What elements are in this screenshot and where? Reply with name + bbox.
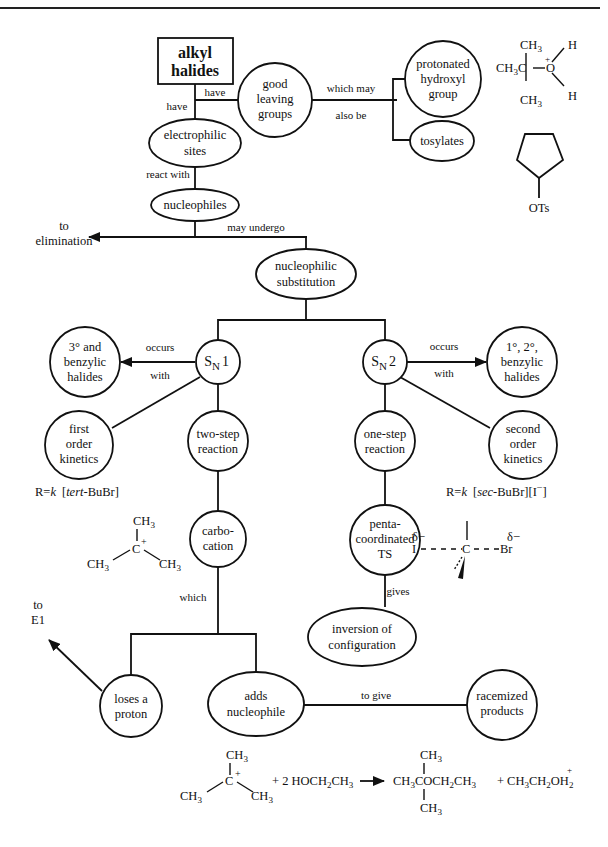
svg-text:CH3: CH3	[133, 514, 155, 530]
svg-text:order: order	[510, 437, 537, 451]
svg-text:first: first	[69, 422, 90, 436]
node-electrophilic-sites: electrophilic sites	[149, 119, 241, 167]
svg-text:proton: proton	[115, 707, 148, 721]
svg-text:benzylic: benzylic	[501, 355, 544, 369]
structure-cyclopentyl-tosylate: OTs	[517, 134, 563, 215]
node-nucleophilic-substitution: nucleophilic substitution	[256, 249, 356, 299]
svg-text:occurs: occurs	[146, 341, 175, 353]
svg-text:halides: halides	[504, 370, 540, 384]
svg-text:CH3C: CH3C	[496, 61, 526, 77]
svg-text:nucleophilic: nucleophilic	[275, 259, 337, 273]
svg-text:CH3: CH3	[251, 789, 273, 805]
svg-text:kinetics: kinetics	[504, 452, 543, 466]
svg-text:second: second	[506, 422, 541, 436]
node-tertiary-benzylic-halides: 3° and benzylic halides	[50, 327, 120, 397]
svg-text:protonated: protonated	[416, 57, 470, 71]
svg-text:with: with	[434, 367, 454, 379]
node-adds-nucleophile: adds nucleophile	[208, 672, 304, 736]
svg-text:CH3COCH2CH3: CH3COCH2CH3	[393, 774, 476, 790]
node-inversion-of-configuration: inversion of configuration	[308, 608, 416, 666]
svg-text:sites: sites	[184, 144, 206, 158]
svg-text:products: products	[480, 704, 523, 718]
node-pentacoordinated-ts: penta- coordinated TS	[350, 505, 420, 575]
svg-text:1°, 2°,: 1°, 2°,	[506, 340, 538, 354]
svg-text:carbo-: carbo-	[202, 524, 234, 538]
svg-text:CH3: CH3	[520, 93, 542, 109]
svg-text:may undergo: may undergo	[227, 221, 285, 233]
svg-text:E1: E1	[31, 613, 45, 627]
svg-text:tosylates: tosylates	[420, 134, 464, 148]
svg-text:OTs: OTs	[529, 201, 550, 215]
svg-text:coordinated: coordinated	[355, 532, 415, 546]
node-one-step-reaction: one-step reaction	[355, 411, 415, 471]
svg-text:Br: Br	[500, 542, 513, 556]
svg-text:R=k[sec-BuBr][I−]: R=k[sec-BuBr][I−]	[446, 482, 547, 499]
svg-text:two-step: two-step	[196, 427, 239, 441]
svg-text:penta-: penta-	[369, 517, 400, 531]
svg-text:have: have	[205, 86, 226, 98]
svg-text:CH3: CH3	[420, 801, 442, 817]
node-protonated-hydroxyl-group: protonated hydroxyl group	[405, 41, 481, 117]
svg-text:good: good	[263, 77, 289, 91]
svg-text:which: which	[180, 591, 207, 603]
node-two-step-reaction: two-step reaction	[188, 411, 248, 471]
svg-text:S: S	[204, 354, 212, 369]
svg-text:+: +	[141, 536, 147, 547]
svg-text:order: order	[66, 437, 93, 451]
svg-text:halides: halides	[67, 370, 103, 384]
svg-text:CH3: CH3	[420, 748, 442, 764]
structure-tbutyl-cation: CH3 C + CH3 CH3	[87, 514, 181, 573]
node-primary-secondary-benzylic-halides: 1°, 2°, benzylic halides	[487, 327, 557, 397]
svg-text:+: +	[567, 765, 572, 775]
node-racemized-products: racemized products	[467, 670, 537, 740]
edges	[49, 79, 490, 705]
svg-text:react with: react with	[146, 168, 190, 180]
svg-text:+ 2 HOCH2CH3: + 2 HOCH2CH3	[272, 774, 354, 790]
equation-sn1-etherification: CH3 C + CH3 CH3 + 2 HOCH2CH3 CH3 CH3COCH…	[180, 748, 573, 817]
svg-text:CH3: CH3	[180, 789, 202, 805]
node-nucleophiles: nucleophiles	[151, 189, 239, 221]
svg-text:C: C	[462, 542, 470, 556]
svg-text:leaving: leaving	[257, 92, 295, 106]
svg-text:S: S	[371, 354, 379, 369]
svg-text:also be: also be	[336, 109, 367, 121]
rate-law-sn1: R=k[tert-BuBr]	[35, 485, 119, 499]
svg-text:C: C	[132, 542, 140, 556]
node-alkyl-halides: alkyl halides	[158, 38, 233, 84]
svg-text:nucleophiles: nucleophiles	[163, 198, 226, 212]
svg-text:with: with	[150, 369, 170, 381]
svg-text:+: +	[545, 54, 550, 64]
concept-map: alkyl halides good leaving groups proton…	[0, 0, 608, 847]
svg-text:halides: halides	[171, 62, 219, 79]
svg-text:+CH3CH2OH2: +CH3CH2OH2	[497, 774, 573, 790]
svg-text:adds: adds	[245, 689, 268, 703]
svg-text:one-step: one-step	[364, 427, 406, 441]
node-carbocation: carbo- cation	[190, 511, 246, 567]
svg-text:have: have	[167, 100, 188, 112]
svg-text:racemized: racemized	[476, 689, 528, 703]
svg-text:loses a: loses a	[114, 692, 148, 706]
svg-text:CH3: CH3	[159, 557, 181, 573]
svg-text:alkyl: alkyl	[178, 44, 212, 62]
svg-text:substitution: substitution	[277, 275, 336, 289]
svg-text:kinetics: kinetics	[60, 452, 99, 466]
svg-text:group: group	[428, 87, 457, 101]
structure-tbutyl-oxonium: CH3 CH3C O + H H CH3	[496, 38, 577, 109]
svg-text:I: I	[412, 542, 416, 556]
svg-text:CH3: CH3	[520, 38, 542, 54]
svg-text:gives: gives	[386, 585, 409, 597]
structure-transition-state: δ− I C δ− Br	[412, 521, 520, 579]
svg-text:H: H	[568, 89, 577, 103]
svg-text:groups: groups	[258, 107, 292, 121]
rate-law-sn2: R=k[sec-BuBr][I−]	[446, 482, 547, 499]
svg-text:+: +	[235, 768, 241, 779]
svg-text:TS: TS	[378, 547, 393, 561]
svg-text:nucleophile: nucleophile	[227, 705, 286, 719]
svg-text:3° and: 3° and	[69, 340, 102, 354]
node-good-leaving-groups: good leaving groups	[238, 63, 312, 137]
svg-text:2: 2	[389, 354, 396, 369]
svg-text:H: H	[568, 38, 577, 52]
svg-text:inversion of: inversion of	[332, 622, 393, 636]
svg-text:benzylic: benzylic	[64, 355, 107, 369]
node-sn1: S N 1	[196, 340, 240, 384]
